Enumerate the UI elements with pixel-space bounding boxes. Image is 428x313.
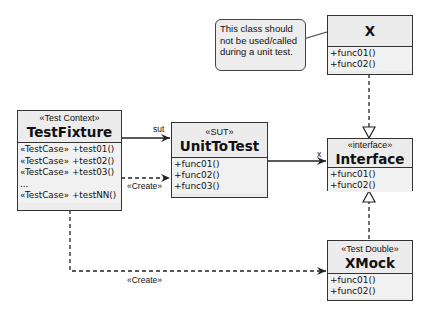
class-interface[interactable]: «interface» Interface +func01() +func02(… <box>327 138 413 191</box>
class-header: «SUT» UnitToTest <box>172 123 267 158</box>
sut-label: sut <box>153 124 164 134</box>
operation: +func02() <box>174 170 265 181</box>
operation: «TestCase» +test01() <box>20 144 119 156</box>
operations: +func01() +func02() +func03() <box>172 158 267 193</box>
class-unittotest[interactable]: «SUT» UnitToTest +func01() +func02() +fu… <box>171 122 268 198</box>
x-label: x <box>317 149 321 159</box>
note: This class should not be used/called dur… <box>215 19 306 71</box>
class-testfixture[interactable]: «Test Context» TestFixture «TestCase» +t… <box>17 110 122 211</box>
operations: «TestCase» +test01() «TestCase» +test02(… <box>18 143 121 203</box>
create-label-mock: «Create» <box>127 275 162 285</box>
operation: +func02() <box>330 59 410 70</box>
class-name: XMock <box>328 255 412 271</box>
class-name: UnitToTest <box>172 138 267 154</box>
class-header: «Test Context» TestFixture <box>18 111 121 143</box>
class-header: «Test Double» XMock <box>328 241 412 274</box>
operation: +func02() <box>330 180 410 191</box>
operation: +func02() <box>330 286 410 297</box>
operation: «TestCase» +test02() <box>20 156 119 168</box>
operation: +func03() <box>174 181 265 192</box>
class-name: Interface <box>328 151 412 167</box>
note-line: during a unit test. <box>220 46 301 58</box>
operation: +func01() <box>330 48 410 59</box>
class-header: X <box>328 16 412 47</box>
stereotype: «SUT» <box>172 127 267 138</box>
operation: +func01() <box>330 169 410 180</box>
operation: ... <box>20 179 119 191</box>
class-header: «interface» Interface <box>328 139 412 168</box>
note-line: This class should <box>220 23 301 35</box>
stereotype: «Test Context» <box>18 113 121 124</box>
operation: +func01() <box>330 275 410 286</box>
realization-arrowhead-bottom <box>363 191 375 202</box>
stereotype: «interface» <box>328 140 412 151</box>
create-dependency-mock <box>70 210 326 271</box>
class-name: X <box>328 23 412 39</box>
operation: «TestCase» +testNN() <box>20 190 119 202</box>
create-label-sut: «Create» <box>127 181 162 191</box>
operations: +func01() +func02() <box>328 274 412 298</box>
class-xmock[interactable]: «Test Double» XMock +func01() +func02() <box>327 240 413 301</box>
operation: «TestCase» +test03() <box>20 167 119 179</box>
operations: +func01() +func02() <box>328 47 412 71</box>
operations: +func01() +func02() <box>328 168 412 192</box>
operation: +func01() <box>174 159 265 170</box>
stereotype: «Test Double» <box>328 244 412 255</box>
realization-arrowhead-top <box>363 127 375 138</box>
note-line: not be used/called <box>220 35 301 47</box>
class-name: TestFixture <box>18 124 121 140</box>
class-x[interactable]: X +func01() +func02() <box>327 15 413 75</box>
